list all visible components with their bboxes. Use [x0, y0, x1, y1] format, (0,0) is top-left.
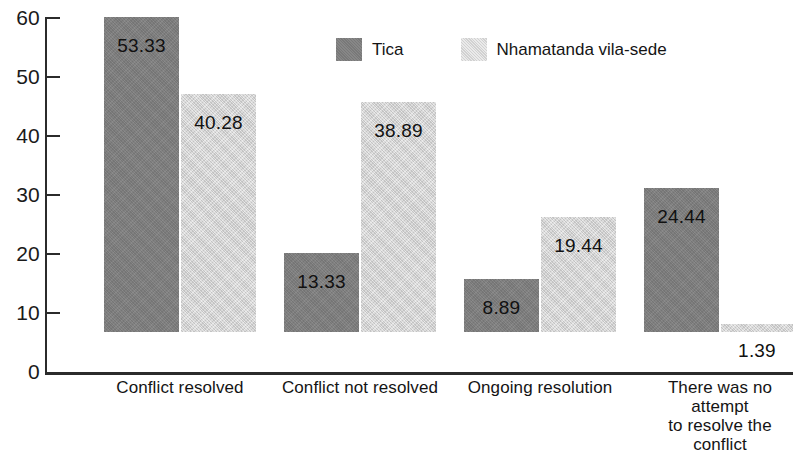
x-axis-line	[45, 372, 793, 375]
bar-value-tica-no-attempt: 24.44	[644, 207, 719, 226]
bar-tica-conflict-not-resolved[interactable]	[284, 253, 359, 332]
x-axis-label-no-attempt: There was no attempt to resolve the conf…	[640, 378, 793, 454]
bar-tica-conflict-resolved[interactable]	[104, 17, 179, 332]
bar-value-nhamatanda-ongoing-resolution: 19.44	[541, 236, 616, 255]
bar-value-tica-ongoing-resolution: 8.89	[464, 298, 539, 317]
legend-label-tica: Tica	[372, 41, 404, 59]
legend-swatch-icon-tica	[336, 38, 362, 61]
legend-swatch-icon-nhamatanda	[461, 38, 487, 61]
bar-value-tica-conflict-not-resolved: 13.33	[284, 272, 359, 291]
x-axis-label-conflict-not-resolved: Conflict not resolved	[270, 378, 450, 397]
x-axis-label-no-attempt-line1: There was no attempt	[668, 378, 772, 416]
bar-nhamatanda-no-attempt[interactable]	[721, 324, 793, 332]
legend-item-tica[interactable]: Tica	[336, 38, 404, 61]
legend-label-nhamatanda: Nhamatanda vila-sede	[497, 41, 667, 59]
bar-value-nhamatanda-conflict-resolved: 40.28	[181, 113, 256, 132]
bar-value-tica-conflict-resolved: 53.33	[104, 36, 179, 55]
legend-item-nhamatanda[interactable]: Nhamatanda vila-sede	[461, 38, 667, 61]
bar-value-nhamatanda-no-attempt: 1.39	[721, 341, 793, 360]
x-axis-label-conflict-resolved: Conflict resolved	[90, 378, 270, 397]
x-axis-label-ongoing-resolution: Ongoing resolution	[450, 378, 630, 397]
bar-value-nhamatanda-conflict-not-resolved: 38.89	[361, 121, 436, 140]
x-axis-label-no-attempt-line2: to resolve the conflict	[640, 416, 793, 454]
chart-legend: Tica Nhamatanda vila-sede	[336, 38, 667, 61]
